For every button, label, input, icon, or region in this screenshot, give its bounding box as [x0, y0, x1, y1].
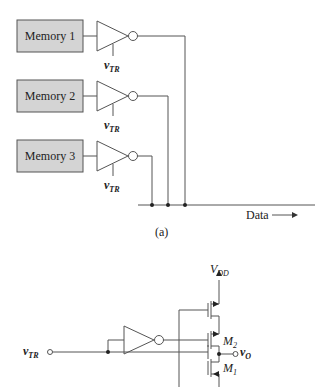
inverter-icon	[124, 326, 154, 354]
vtr-input-label: vTR	[23, 344, 39, 360]
control-3-label: vTR	[104, 178, 120, 194]
caption-a: (a)	[155, 225, 168, 240]
memory-3-label: Memory 3	[17, 140, 83, 172]
control-2-label: vTR	[104, 118, 120, 134]
vo-label: vO	[240, 345, 251, 361]
tristate-bus-diagram	[0, 0, 315, 387]
data-bus-label: Data	[246, 208, 269, 223]
m1-label: M1	[223, 361, 237, 377]
m2-label: M2	[223, 334, 237, 350]
control-1-label: vTR	[104, 58, 120, 74]
vdd-label: VDD	[210, 262, 229, 278]
memory-1-label: Memory 1	[17, 20, 83, 52]
memory-2-label: Memory 2	[17, 80, 83, 112]
